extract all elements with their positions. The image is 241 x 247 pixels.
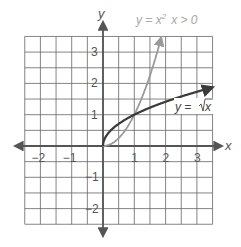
y-tick-label: 3 bbox=[91, 45, 98, 59]
x-tick-label: 3 bbox=[194, 151, 201, 165]
svg-text:x: x bbox=[204, 100, 212, 114]
y-tick-label: 1 bbox=[91, 108, 98, 122]
y-tick-label: −1 bbox=[85, 170, 99, 184]
sqrt-label: y = x bbox=[174, 98, 214, 114]
y-tick-label: 2 bbox=[91, 76, 98, 90]
y-tick-label: −2 bbox=[85, 202, 99, 216]
x-axis-label: x bbox=[224, 138, 232, 153]
y-axis-label: y bbox=[97, 6, 106, 21]
grid-lines bbox=[25, 36, 213, 224]
x-tick-label: −1 bbox=[63, 151, 77, 165]
graph-canvas: x y −2−1123 321−1−2 y = x2x > 0 y = x bbox=[0, 0, 241, 247]
x-tick-label: 1 bbox=[131, 151, 138, 165]
x-tick-label: 2 bbox=[163, 151, 170, 165]
x-tick-label: −2 bbox=[31, 151, 45, 165]
x-tick-labels: −2−1123 bbox=[31, 151, 201, 165]
parabola-label: y = x2x > 0 bbox=[135, 12, 198, 27]
svg-text:y =: y = bbox=[174, 100, 191, 114]
